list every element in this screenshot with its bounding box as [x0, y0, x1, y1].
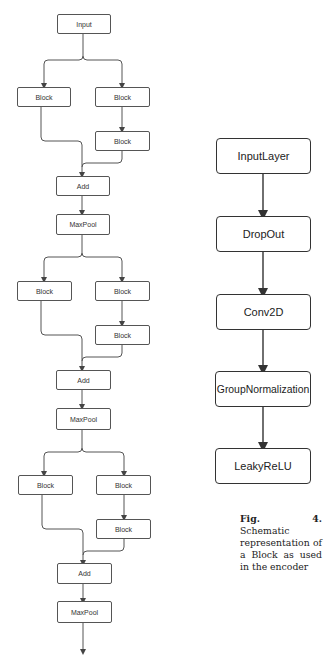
figure-caption: Fig. 4. Schematic representation of a Bl…	[240, 513, 322, 573]
caption-label: Fig. 4.	[240, 513, 322, 524]
input-node: Input	[57, 14, 111, 34]
inputlayer-node: InputLayer	[216, 138, 311, 174]
stage3-maxpool-node: MaxPool	[57, 601, 112, 623]
stage3-add-node: Add	[57, 563, 112, 584]
stage2-block-right: Block	[95, 281, 150, 301]
stage2-block-right-2: Block	[95, 325, 150, 345]
caption-text: Schematic representation of a Block as u…	[240, 525, 322, 572]
groupnormalization-node: GroupNormalization	[215, 371, 311, 407]
stage2-maxpool-node: MaxPool	[56, 408, 111, 430]
stage3-block-left: Block	[18, 475, 73, 495]
stage1-maxpool-node: MaxPool	[56, 214, 110, 235]
stage3-block-right-2: Block	[96, 519, 151, 539]
stage1-block-left: Block	[17, 87, 71, 107]
stage2-block-left: Block	[17, 281, 72, 301]
stage3-block-right: Block	[96, 475, 151, 495]
stage2-add-node: Add	[56, 370, 111, 390]
stage1-add-node: Add	[56, 176, 110, 196]
stage1-block-right: Block	[95, 87, 150, 107]
leakyrelu-node: LeakyReLU	[215, 448, 311, 484]
conv2d-node: Conv2D	[216, 294, 311, 330]
dropout-node: DropOut	[216, 216, 311, 252]
stage1-block-right-2: Block	[95, 131, 150, 151]
